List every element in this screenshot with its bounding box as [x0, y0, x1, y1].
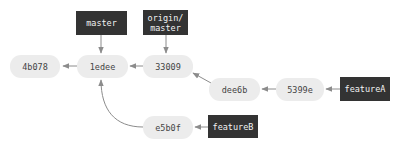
commit-e5b0f: e5b0f: [143, 116, 193, 139]
commit-4b078: 4b078: [10, 55, 60, 78]
commit-1edee: 1edee: [77, 55, 128, 78]
git-branch-diagram: master origin/ master featureA featureB …: [0, 0, 398, 146]
edge-e5b0f-to-1edee: [101, 80, 143, 127]
ref-origin-master: origin/ master: [143, 10, 188, 35]
edges-layer: [0, 0, 398, 146]
ref-featureA: featureA: [340, 77, 390, 101]
ref-featureB: featureB: [208, 115, 258, 138]
edge-dee6b-to-33009: [193, 73, 211, 83]
commit-33009: 33009: [143, 55, 193, 78]
commit-dee6b: dee6b: [209, 78, 260, 101]
commit-5399e: 5399e: [276, 78, 324, 101]
ref-master: master: [76, 11, 127, 35]
